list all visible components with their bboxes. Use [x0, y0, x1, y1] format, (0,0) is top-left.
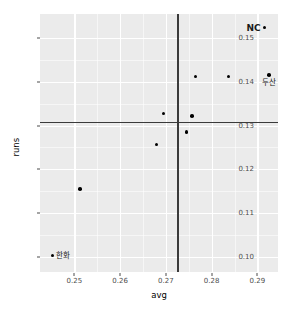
- reference-line-vertical: [177, 14, 178, 272]
- y-axis-tick-mark: [37, 81, 40, 82]
- data-point: [194, 75, 198, 79]
- data-point: [263, 26, 267, 30]
- x-axis-tick-mark: [257, 273, 258, 276]
- gridline-x-major: [257, 14, 258, 272]
- data-point: [267, 73, 271, 77]
- gridline-y-minor: [40, 235, 278, 236]
- x-axis-tick-mark: [74, 273, 75, 276]
- x-axis-tick-label: 0.25: [67, 278, 83, 285]
- data-point: [162, 112, 166, 116]
- data-point-label: NC: [247, 24, 261, 33]
- data-point-label: 두산: [262, 79, 276, 87]
- x-axis-tick-label: 0.29: [250, 278, 266, 285]
- data-point: [227, 75, 231, 79]
- gridline-x-minor: [189, 14, 190, 272]
- data-point: [190, 114, 194, 118]
- y-axis-tick-mark: [37, 213, 40, 214]
- gridline-x-major: [212, 14, 213, 272]
- gridline-x-major: [74, 14, 75, 272]
- x-axis-tick-label: 0.28: [204, 278, 220, 285]
- scatter-plot-figure: 한화NC두산 runs avg 0.100.110.120.130.140.15…: [0, 0, 288, 319]
- gridline-y-minor: [40, 147, 278, 148]
- y-axis-tick-mark: [37, 125, 40, 126]
- gridline-x-minor: [97, 14, 98, 272]
- x-axis-tick-label: 0.26: [112, 278, 128, 285]
- y-axis-tick-label: 0.11: [238, 210, 254, 217]
- data-point: [78, 187, 82, 191]
- y-axis-title: runs: [12, 117, 21, 177]
- plot-panel: 한화NC두산: [40, 14, 278, 272]
- gridline-y-minor: [40, 191, 278, 192]
- y-axis-tick-mark: [37, 256, 40, 257]
- data-point: [155, 143, 159, 147]
- x-axis-title: avg: [40, 291, 278, 300]
- y-axis-tick-label: 0.12: [238, 166, 254, 173]
- gridline-y-minor: [40, 104, 278, 105]
- data-point: [185, 130, 189, 134]
- y-axis-tick-label: 0.15: [238, 35, 254, 42]
- x-axis-tick-mark: [120, 273, 121, 276]
- y-axis-tick-mark: [37, 169, 40, 170]
- y-axis-tick-label: 0.14: [238, 78, 254, 85]
- x-axis-tick-mark: [165, 273, 166, 276]
- y-axis-tick-mark: [37, 38, 40, 39]
- y-axis-tick-label: 0.10: [238, 253, 254, 260]
- data-point-label: 한화: [56, 252, 70, 260]
- gridline-y-minor: [40, 60, 278, 61]
- x-axis-tick-mark: [211, 273, 212, 276]
- gridline-x-minor: [143, 14, 144, 272]
- gridline-x-major: [166, 14, 167, 272]
- y-axis-tick-label: 0.13: [238, 122, 254, 129]
- gridline-x-minor: [235, 14, 236, 272]
- x-axis-tick-label: 0.27: [158, 278, 174, 285]
- gridline-x-major: [120, 14, 121, 272]
